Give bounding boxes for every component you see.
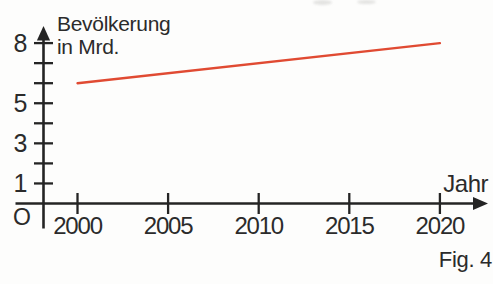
y-tick-label-1: 1 (0, 169, 27, 197)
figure-caption: Fig. 4 (400, 247, 492, 273)
x-tick-label-2010: 2010 (224, 213, 294, 239)
scan-artifact (357, 0, 376, 4)
y-axis-title: Bevölkerung in Mrd. (57, 13, 170, 58)
x-tick-label-2000: 2000 (43, 213, 113, 239)
y-tick-label-3: 3 (0, 129, 27, 157)
y-axis-title-line2: in Mrd. (57, 36, 170, 59)
y-axis-arrowhead-icon (37, 26, 50, 41)
y-axis-title-line1: Bevölkerung (57, 13, 170, 36)
x-axis-title: Jahr (398, 172, 488, 196)
y-tick-label-5: 5 (0, 89, 27, 117)
scan-artifact (313, 0, 332, 5)
x-tick-label-2015: 2015 (314, 213, 384, 239)
population-line-chart-figure: Bevölkerung in Mrd. Jahr O Fig. 4 135820… (0, 0, 493, 284)
x-tick-label-2020: 2020 (405, 213, 475, 239)
origin-label: O (13, 205, 31, 229)
y-tick-label-8: 8 (0, 29, 27, 57)
x-axis-arrowhead-icon (473, 197, 488, 210)
x-tick-label-2005: 2005 (133, 213, 203, 239)
